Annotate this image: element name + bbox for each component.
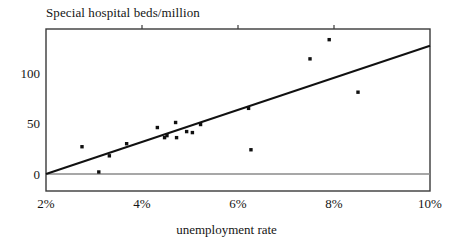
trend-line bbox=[46, 46, 430, 174]
ytick-label-50: 50 bbox=[4, 116, 40, 132]
xtick-label-10pct: 10% bbox=[410, 196, 450, 212]
data-point bbox=[125, 142, 128, 145]
data-point bbox=[156, 126, 159, 129]
data-point bbox=[199, 123, 202, 126]
data-point bbox=[191, 131, 194, 134]
ytick-label-0: 0 bbox=[4, 167, 40, 183]
scatter-chart-figure: Special hospital beds/million 100 50 0 2… bbox=[0, 0, 453, 251]
data-point bbox=[80, 145, 83, 148]
plot-area bbox=[0, 0, 453, 251]
data-point bbox=[175, 136, 178, 139]
xtick-label-2pct: 2% bbox=[26, 196, 66, 212]
xtick-label-4pct: 4% bbox=[122, 196, 162, 212]
data-point bbox=[328, 38, 331, 41]
data-point-group bbox=[80, 38, 359, 174]
ytick-label-100: 100 bbox=[4, 66, 40, 82]
data-point bbox=[249, 148, 252, 151]
data-point bbox=[247, 107, 250, 110]
data-point bbox=[174, 121, 177, 124]
xtick-label-6pct: 6% bbox=[218, 196, 258, 212]
data-point bbox=[308, 57, 311, 60]
data-point bbox=[108, 154, 111, 157]
x-axis-title: unemployment rate bbox=[0, 222, 453, 238]
data-point bbox=[165, 134, 168, 137]
data-point bbox=[356, 90, 359, 93]
data-point bbox=[185, 130, 188, 133]
data-point bbox=[97, 170, 100, 173]
xtick-label-8pct: 8% bbox=[314, 196, 354, 212]
